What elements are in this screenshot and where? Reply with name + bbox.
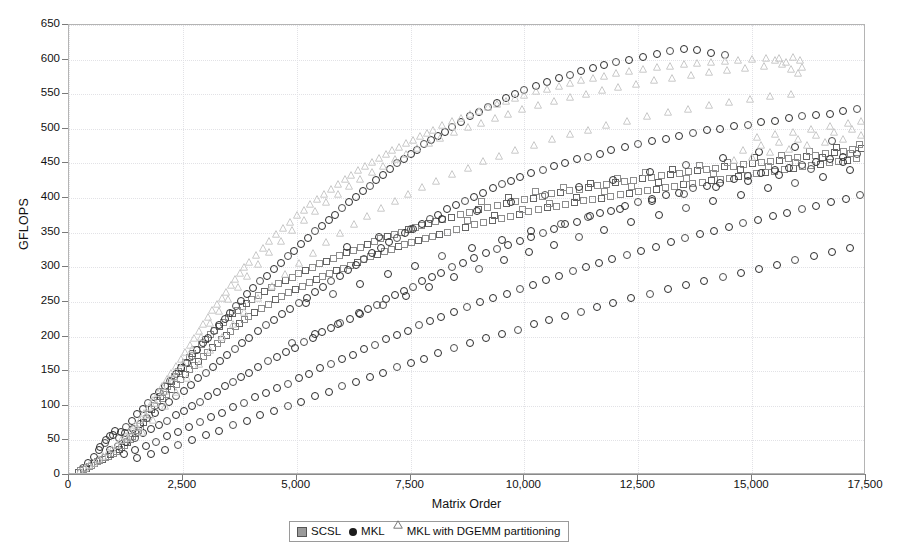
data-point <box>243 272 251 280</box>
data-point <box>364 305 372 313</box>
data-point <box>338 204 346 212</box>
data-point <box>794 69 802 77</box>
data-point <box>498 236 506 244</box>
data-point <box>420 355 428 363</box>
data-point <box>560 184 567 191</box>
data-point <box>327 277 335 285</box>
data-point <box>172 411 180 419</box>
data-point <box>336 272 344 280</box>
data-point <box>234 283 242 291</box>
data-point <box>844 119 852 127</box>
data-point <box>482 334 490 342</box>
data-point <box>147 450 155 458</box>
data-point <box>516 173 524 181</box>
data-point <box>286 305 294 313</box>
data-point <box>616 205 624 213</box>
data-point <box>331 211 339 219</box>
data-point <box>346 315 354 323</box>
data-point <box>404 190 412 198</box>
data-point <box>498 180 506 188</box>
data-point <box>723 66 731 74</box>
data-point <box>325 388 333 396</box>
data-point <box>375 233 383 241</box>
data-point <box>648 137 656 145</box>
data-point <box>206 319 214 327</box>
data-point <box>251 393 259 401</box>
data-point <box>295 259 303 267</box>
data-point <box>352 193 360 201</box>
data-point <box>479 157 487 165</box>
data-point <box>229 421 237 429</box>
data-point <box>468 244 476 252</box>
data-point <box>627 218 635 226</box>
data-point <box>543 85 551 93</box>
data-point <box>277 259 285 267</box>
data-point <box>476 298 484 306</box>
data-point <box>682 281 690 289</box>
data-point <box>595 259 603 267</box>
data-point <box>498 330 506 338</box>
legend-item: MKL <box>349 525 385 538</box>
data-point <box>393 234 401 242</box>
data-point <box>254 260 262 268</box>
data-point <box>194 374 202 382</box>
legend-label: MKL <box>361 525 385 538</box>
data-point <box>771 130 779 138</box>
data-point <box>810 252 818 260</box>
data-point <box>575 233 583 241</box>
data-point <box>489 294 497 302</box>
y-tick-label: 300 <box>14 260 60 271</box>
legend-triangle-icon <box>393 528 403 536</box>
data-point <box>300 216 308 224</box>
data-point <box>409 283 417 291</box>
data-point <box>737 191 745 199</box>
data-point <box>566 71 574 79</box>
data-point <box>263 272 271 280</box>
data-point <box>775 171 783 179</box>
data-point <box>336 229 344 237</box>
data-point <box>598 86 606 94</box>
data-point <box>478 198 485 205</box>
data-point <box>584 126 592 134</box>
data-point <box>464 164 472 172</box>
data-point <box>746 95 754 103</box>
data-point <box>857 131 865 139</box>
data-point <box>204 334 212 342</box>
data-point <box>305 370 313 378</box>
data-point <box>623 251 631 259</box>
data-point <box>680 45 688 53</box>
data-point <box>612 69 620 77</box>
data-point <box>721 57 729 65</box>
data-point <box>785 164 793 172</box>
data-point <box>783 209 791 217</box>
data-point <box>477 119 485 127</box>
plot-area <box>68 24 865 474</box>
data-point <box>495 152 503 160</box>
data-point <box>566 130 574 138</box>
data-point <box>379 301 387 309</box>
data-point <box>453 226 460 233</box>
data-point <box>607 146 615 154</box>
data-point <box>532 87 540 95</box>
data-point <box>131 446 139 454</box>
data-point <box>826 122 834 130</box>
data-point <box>785 114 793 122</box>
data-point <box>803 141 811 149</box>
data-point <box>794 135 802 143</box>
data-point <box>491 114 499 122</box>
data-point <box>689 184 697 192</box>
data-point <box>484 103 492 111</box>
data-point <box>245 334 253 342</box>
data-point <box>753 133 761 141</box>
data-point <box>719 154 727 162</box>
data-point <box>437 269 445 277</box>
legend-circle-icon <box>349 528 357 536</box>
data-point <box>687 71 695 79</box>
data-point <box>297 398 305 406</box>
x-axis-title: Matrix Order <box>68 497 865 511</box>
data-point <box>535 206 542 213</box>
data-point <box>652 243 660 251</box>
data-point <box>237 297 245 305</box>
data-point <box>648 197 656 205</box>
data-point <box>407 359 415 367</box>
